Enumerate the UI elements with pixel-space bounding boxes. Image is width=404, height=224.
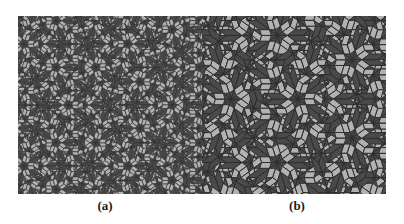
panel-b-tiling [202,16,386,194]
fat-rhombus-tile [379,75,386,81]
fat-rhombus-tile [99,64,106,67]
fat-rhombus-tile [189,111,196,114]
caption-label-b: (b) [257,198,337,214]
rhombus-group [18,16,202,194]
fat-rhombus-tile [379,69,386,75]
fat-rhombus-tile [117,191,124,194]
fat-rhombus-tile [72,148,79,151]
fat-rhombus-tile [28,166,35,169]
fat-rhombus-tile [189,96,196,99]
fat-rhombus-tile [214,93,226,99]
fat-rhombus-tile [144,128,151,131]
fat-rhombus-tile [189,186,196,189]
fat-rhombus-tile [189,35,196,38]
fat-rhombus-tile [144,78,151,81]
panel-a-tiling [18,16,202,194]
fat-rhombus-tile [99,143,106,146]
fat-rhombus-tile [72,134,79,137]
fat-rhombus-tile [162,177,169,180]
fat-rhombus-tile [99,139,106,142]
fat-rhombus-tile [260,108,272,114]
fat-rhombus-tile [117,87,124,90]
fat-rhombus-tile [99,67,106,70]
caption-label-a: (a) [65,198,145,214]
fat-rhombus-tile [46,21,53,24]
fat-rhombus-tile [46,143,53,146]
fat-rhombus-tile [379,118,386,124]
fat-rhombus-tile [46,67,53,70]
fat-rhombus-tile [28,87,35,90]
fat-rhombus-tile [189,21,196,24]
fat-rhombus-tile [162,26,169,29]
fat-rhombus-tile [72,73,79,76]
fat-rhombus-tile [189,139,196,142]
tiling-svg-b [202,16,386,194]
fat-rhombus-tile [379,148,386,154]
fat-rhombus-tile [379,45,386,51]
fat-rhombus-tile [46,64,53,67]
fat-rhombus-tile [334,54,346,60]
fat-rhombus-tile [28,119,35,122]
fat-rhombus-tile [117,163,124,166]
fat-rhombus-tile [28,41,35,44]
fat-rhombus-tile [334,133,346,139]
fat-rhombus-tile [72,26,79,29]
fat-rhombus-tile [162,180,169,183]
fat-rhombus-tile [379,39,386,45]
tiling-svg-a [18,16,202,194]
fat-rhombus-tile [46,139,53,142]
fat-rhombus-tile [379,153,386,159]
fat-rhombus-tile [304,172,316,178]
fat-rhombus-tile [117,119,124,122]
fat-rhombus-tile [46,186,53,189]
fat-rhombus-tile [162,105,169,108]
fat-rhombus-tile [117,16,124,19]
fat-rhombus-tile [117,44,124,47]
fat-rhombus-tile [72,102,79,105]
fat-rhombus-tile [304,99,316,105]
fat-rhombus-tile [260,163,272,169]
fat-rhombus-tile [72,180,79,183]
fat-rhombus-tile [260,84,272,90]
fat-rhombus-tile [189,67,196,70]
fat-rhombus-tile [379,123,386,129]
figure-container: (a) (b) [0,0,404,224]
fat-rhombus-tile [144,157,151,160]
fat-rhombus-tile [144,125,151,128]
fat-rhombus-tile [334,138,346,144]
fat-rhombus-tile [189,172,196,175]
fat-rhombus-tile [72,58,79,61]
fat-rhombus-tile [46,17,53,20]
fat-rhombus-tile [162,30,169,33]
fat-rhombus-tile [304,20,316,26]
fat-rhombus-tile [144,82,151,85]
fat-rhombus-tile [46,189,53,192]
fat-rhombus-tile [260,30,272,36]
fat-rhombus-tile [144,49,151,52]
fat-rhombus-tile [334,60,346,66]
